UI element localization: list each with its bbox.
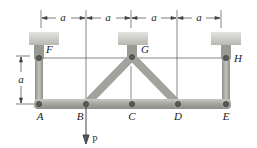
member-HE xyxy=(222,57,230,105)
pin-B xyxy=(83,101,88,106)
dimension-label-3: a xyxy=(151,11,157,23)
pin-E xyxy=(223,101,228,106)
frame-diagram: a a a a a P F G H A B xyxy=(0,0,257,148)
dimension-label-4: a xyxy=(196,11,202,23)
pin-F xyxy=(36,55,41,60)
label-B: B xyxy=(77,110,84,122)
pin-H xyxy=(223,55,228,60)
pin-C xyxy=(129,101,134,106)
member-FA xyxy=(35,57,43,105)
label-C: C xyxy=(128,110,136,122)
support-F xyxy=(29,32,59,45)
dimension-label-2: a xyxy=(105,11,111,23)
pin-A xyxy=(36,101,41,106)
member-GD xyxy=(132,57,178,104)
support-H xyxy=(211,32,241,45)
label-A: A xyxy=(36,110,44,122)
label-D: D xyxy=(173,110,182,122)
member-GB xyxy=(86,57,132,104)
label-G: G xyxy=(141,43,149,55)
pin-G xyxy=(129,54,134,59)
load-arrow xyxy=(83,107,89,144)
label-F: F xyxy=(45,43,53,55)
pin-D xyxy=(175,101,180,106)
vertical-dimension-label: a xyxy=(18,73,24,85)
label-E: E xyxy=(222,110,230,122)
dimension-label-1: a xyxy=(60,11,66,23)
load-label: P xyxy=(92,134,98,145)
label-H: H xyxy=(233,52,243,64)
